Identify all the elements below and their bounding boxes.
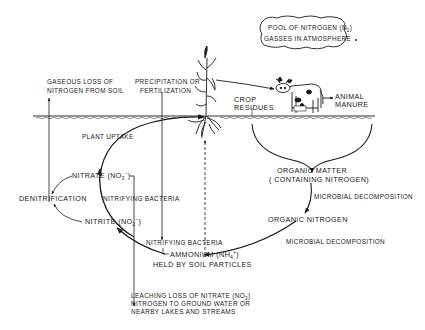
gaseous-loss-label-1: GASEOUS LOSS OF xyxy=(47,78,113,86)
animal-manure-label-2: MANURE xyxy=(335,101,369,109)
diagram-artwork xyxy=(0,0,425,330)
microbial-decomposition-label-1: MICROBIAL DECOMPOSITION xyxy=(314,193,413,201)
denitrification-label: DENITRIFICATION xyxy=(19,195,87,203)
leaching-label-2: NITROGEN TO GROUND WATER OR xyxy=(131,300,250,308)
corn-plant-icon xyxy=(188,46,221,138)
cloud-bubble-icon xyxy=(260,16,357,49)
cow-icon xyxy=(276,77,323,113)
leaching-label-1: LEACHING LOSS OF NITRATE (NO3) xyxy=(131,292,250,300)
gaseous-loss-label-2: NITROGEN FROM SOIL xyxy=(47,87,124,95)
nitrogen-cycle-diagram: POOL OF NITROGEN (N2) GASSES IN ATMOSPHE… xyxy=(0,0,425,330)
organic-matter-label-1: ORGANIC MATTER xyxy=(277,167,347,175)
ammonium-held-label: HELD BY SOIL PARTICLES xyxy=(153,261,252,269)
organic-nitrogen-label: ORGANIC NITROGEN xyxy=(268,216,348,224)
nitrate-denitrification-arrow xyxy=(52,176,72,194)
atmosphere-label-line1: POOL OF NITROGEN (N2) xyxy=(268,24,352,32)
decomposition-arrow xyxy=(305,183,311,213)
nitrite-label: NITRITE (NO2−) xyxy=(85,218,141,226)
crop-residues-label-2: RESIDUES xyxy=(234,104,274,112)
nitrifying-bacteria-label-2: NITRIFYING BACTERIA xyxy=(146,239,223,247)
nitrate-label: NITRATE (NO3−) xyxy=(72,172,131,180)
nitrifying-bacteria-label-1: NITRIFYING BACTERIA xyxy=(103,195,180,203)
organic-matter-brace xyxy=(252,124,372,172)
plant-uptake-label: PLANT UPTAKE xyxy=(82,133,134,141)
leaching-label-3: NEARBY LAKES AND STREAMS xyxy=(131,308,236,316)
precipitation-label-2: FERTILIZATION xyxy=(140,87,191,95)
precipitation-label-1: PRECIPITATION OR xyxy=(135,78,200,86)
nitrite-denitrification-arrow xyxy=(54,204,82,222)
plant-uptake-arrow xyxy=(100,117,204,176)
organic-matter-label-2: ( CONTAINING NITROGEN) xyxy=(269,176,369,184)
atmosphere-label-line2: GASSES IN ATMOSPHERE xyxy=(264,35,351,43)
ammonium-label: AMMONIUM (NH4+) xyxy=(170,251,239,259)
microbial-decomposition-label-2: MICROBIAL DECOMPOSITION xyxy=(286,238,385,246)
